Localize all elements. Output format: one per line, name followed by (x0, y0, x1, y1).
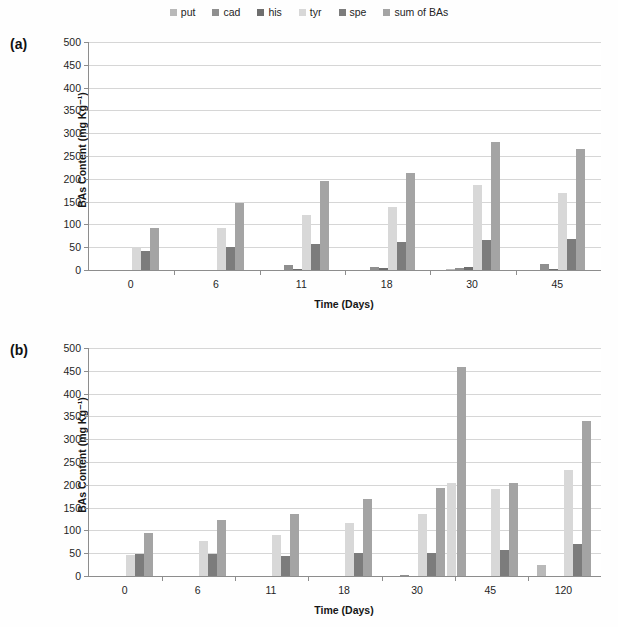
y-tick-label: 100 (63, 218, 81, 230)
legend-item-sum-of-BAs[interactable]: sum of BAs (383, 7, 448, 18)
bar-tyr-day-45[interactable] (558, 193, 567, 270)
bar-sum-of-BAs-day-18[interactable] (363, 499, 372, 576)
bar-his-day-11[interactable] (293, 269, 302, 270)
bar-group-day-18 (345, 42, 430, 270)
bar-spe-day-11[interactable] (311, 244, 320, 270)
x-tick-label: 18 (344, 278, 429, 290)
bar-sum-of-BAs-day-0[interactable] (150, 228, 159, 270)
x-tick-label: 6 (161, 584, 234, 596)
bar-tyr-day-11[interactable] (302, 215, 311, 270)
bar-his-day-30[interactable] (464, 267, 473, 270)
legend-swatch-icon (212, 9, 219, 16)
bar-cad-day-30[interactable] (455, 268, 464, 270)
bar-spe-day-120[interactable] (573, 544, 582, 576)
bar-tyr-day-30[interactable] (473, 185, 482, 270)
bar-put-day-30[interactable] (446, 269, 455, 270)
y-tick-label: 450 (63, 59, 81, 71)
bar-groups (89, 348, 601, 576)
bar-spe-day-0[interactable] (141, 251, 150, 270)
bar-tyr-day-45-secondary[interactable] (447, 483, 456, 576)
bar-spe-day-45[interactable] (500, 550, 509, 576)
bar-spe-day-11[interactable] (281, 556, 290, 576)
y-tick-label: 200 (63, 173, 81, 185)
x-axis-tick (528, 576, 529, 581)
bar-spe-day-30[interactable] (427, 553, 436, 576)
bar-cad-day-18[interactable] (370, 267, 379, 270)
bar-spe-day-45[interactable] (567, 239, 576, 270)
bar-tyr-day-0[interactable] (126, 555, 135, 576)
x-tick-label: 11 (234, 584, 307, 596)
bar-cad-day-11[interactable] (284, 265, 293, 270)
bar-sum-of-BAs-day-18[interactable] (406, 173, 415, 270)
bar-sum-of-BAs-day-30[interactable] (436, 488, 445, 576)
y-tick-label: 500 (63, 36, 81, 48)
bar-sum-of-BAs-day-30[interactable] (491, 142, 500, 270)
bar-tyr-day-6[interactable] (217, 228, 226, 270)
legend-item-put[interactable]: put (170, 7, 196, 18)
panel-b-x-axis-label: Time (Days) (88, 604, 600, 616)
x-axis-tick (260, 270, 261, 275)
legend-item-his[interactable]: his (257, 7, 281, 18)
bar-cad-day-45[interactable] (540, 264, 549, 270)
y-tick-label: 200 (63, 479, 81, 491)
y-tick-label: 350 (63, 104, 81, 116)
x-tick-label: 30 (381, 584, 454, 596)
x-axis-tick (162, 576, 163, 581)
bar-spe-day-6[interactable] (208, 554, 217, 576)
y-tick-label: 0 (75, 264, 81, 276)
bar-tyr-day-45[interactable] (491, 489, 500, 576)
bar-spe-day-0[interactable] (135, 554, 144, 576)
bar-sum-of-BAs-day-6[interactable] (235, 203, 244, 270)
chart-legend: putcadhistyrspesum of BAs (0, 7, 618, 18)
bar-spe-day-30[interactable] (482, 240, 491, 270)
bar-groups (89, 42, 601, 270)
bar-tyr-day-18[interactable] (388, 207, 397, 270)
legend-item-tyr[interactable]: tyr (299, 7, 322, 18)
bar-group-day-18 (308, 348, 381, 576)
bar-sum-of-BAs-day-120[interactable] (582, 421, 591, 576)
bar-tyr-day-30[interactable] (418, 514, 427, 576)
bar-spe-day-18[interactable] (397, 242, 406, 270)
legend-item-label: sum of BAs (394, 7, 448, 18)
x-tick-label: 45 (515, 278, 600, 290)
bar-spe-day-18[interactable] (354, 553, 363, 576)
bar-spe-day-6[interactable] (226, 247, 235, 270)
bar-his-day-45[interactable] (549, 269, 558, 270)
legend-item-label: his (268, 7, 281, 18)
y-tick-label: 250 (63, 150, 81, 162)
legend-item-spe[interactable]: spe (339, 7, 367, 18)
y-tick-label: 300 (63, 433, 81, 445)
y-tick-label: 250 (63, 456, 81, 468)
x-tick-label: 18 (307, 584, 380, 596)
legend-item-label: cad (223, 7, 240, 18)
bar-sum-of-BAs-day-6[interactable] (217, 520, 226, 576)
bar-put-day-120[interactable] (537, 565, 546, 576)
legend-swatch-icon (170, 9, 177, 16)
legend-item-cad[interactable]: cad (212, 7, 240, 18)
bar-tyr-day-120[interactable] (564, 470, 573, 576)
bar-sum-of-BAs-day-0[interactable] (144, 533, 153, 576)
legend-item-label: spe (350, 7, 367, 18)
x-axis-tick (345, 270, 346, 275)
bar-tyr-day-11[interactable] (272, 535, 281, 576)
bar-tyr-day-6[interactable] (199, 541, 208, 576)
bar-cad-day-30[interactable] (400, 575, 409, 576)
x-axis-tick (430, 270, 431, 275)
y-tick-label: 500 (63, 342, 81, 354)
bar-sum-of-BAs-day-45-secondary[interactable] (457, 367, 466, 576)
y-tick-label: 350 (63, 410, 81, 422)
bar-group-day-11 (235, 348, 308, 576)
bar-sum-of-BAs-day-11[interactable] (320, 181, 329, 270)
bar-his-day-18[interactable] (379, 268, 388, 270)
x-tick-label: 0 (88, 584, 161, 596)
bar-sum-of-BAs-day-45[interactable] (576, 149, 585, 270)
y-axis-tick (84, 270, 89, 271)
bar-tyr-day-0[interactable] (132, 247, 141, 270)
bar-sum-of-BAs-day-45[interactable] (509, 483, 518, 576)
panel-a-tag: (a) (10, 36, 27, 52)
bar-sum-of-BAs-day-11[interactable] (290, 514, 299, 576)
panel-a-x-axis-label: Time (Days) (88, 298, 600, 310)
bar-tyr-day-18[interactable] (345, 523, 354, 576)
x-axis-tick (308, 576, 309, 581)
panel-b-tag: (b) (10, 342, 28, 358)
